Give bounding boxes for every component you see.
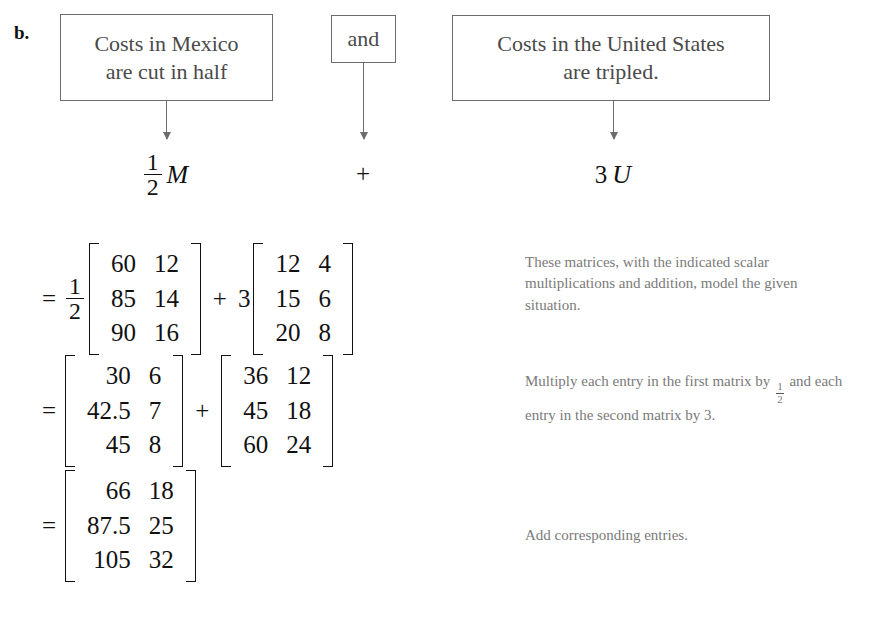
equation-line-1: = 1 2 60 12 85 14 90 16 + 3 [34, 243, 354, 355]
matrix-cell: 4 [309, 247, 340, 282]
expression-half-m: 1 2 M [120, 150, 212, 199]
annotation-note-3: Add corresponding entries. [525, 525, 825, 546]
matrix-cell: 30 [78, 359, 140, 394]
matrix-variable-m: M [162, 160, 189, 190]
matrix-cell: 20 [266, 316, 309, 351]
matrix-cell: 8 [309, 316, 340, 351]
matrix-variable-u: U [607, 160, 631, 190]
matrix-cell: 60 [234, 428, 277, 463]
equation-line-2: = 30 6 42.5 7 45 8 + 36 [34, 355, 334, 467]
fraction-one-half: 1 2 [144, 150, 162, 199]
matrix-cell: 12 [277, 359, 320, 394]
matrix-u-scaled: 36 12 45 18 60 24 [221, 355, 333, 467]
operator-plus-1: + [202, 285, 238, 313]
matrix-cell: 6 [140, 359, 171, 394]
matrix-cell: 36 [234, 359, 277, 394]
matrix-cell: 12 [266, 247, 309, 282]
statement-box-mexico-line2: are cut in half [106, 59, 228, 84]
statement-box-and: and [331, 15, 396, 63]
part-label: b. [14, 22, 29, 44]
matrix-cell: 105 [78, 543, 140, 578]
matrix-m-original: 60 12 85 14 90 16 [89, 243, 201, 355]
matrix-cell: 32 [140, 543, 183, 578]
matrix-cell: 8 [140, 428, 171, 463]
inline-fraction-numerator: 1 [776, 381, 784, 393]
matrix-cell: 85 [102, 282, 145, 317]
scalar-three: 3 [595, 161, 608, 189]
symbolic-expression-row: 1 2 M + 3U [0, 150, 896, 206]
scalar-numerator-1: 1 [66, 274, 84, 298]
statement-box-united-states-text: Costs in the United States are tripled. [489, 30, 732, 85]
annotation-note-2: Multiply each entry in the first matrix … [525, 371, 845, 427]
inline-fraction-denominator: 2 [776, 393, 784, 406]
matrix-cell: 90 [102, 316, 145, 351]
matrix-cell: 6 [309, 282, 340, 317]
fraction-numerator: 1 [144, 150, 162, 174]
scalar-three-1: 3 [238, 285, 253, 313]
statement-box-united-states-line1: Costs in the United States [497, 31, 724, 56]
equals-sign-2: = [34, 397, 64, 425]
down-arrow-icon-mexico [166, 101, 167, 139]
equals-sign-3: = [34, 512, 64, 540]
matrix-cell: 15 [266, 282, 309, 317]
operator-plus-2: + [184, 397, 220, 425]
matrix-cell: 18 [277, 394, 320, 429]
matrix-cell: 60 [102, 247, 145, 282]
matrix-cell: 24 [277, 428, 320, 463]
matrix-cell: 45 [234, 394, 277, 429]
fraction-denominator: 2 [144, 174, 162, 199]
annotation-note-2-before: Multiply each entry in the first matrix … [525, 373, 770, 389]
scalar-denominator-1: 2 [66, 298, 84, 323]
matrix-m-scaled: 30 6 42.5 7 45 8 [65, 355, 183, 467]
matrix-cell: 45 [78, 428, 140, 463]
annotation-note-1: These matrices, with the indicated scala… [525, 252, 825, 316]
statement-box-mexico-text: Costs in Mexico are cut in half [86, 30, 246, 85]
statement-box-mexico: Costs in Mexico are cut in half [60, 14, 273, 101]
matrix-cell: 16 [145, 316, 188, 351]
matrix-cell: 87.5 [78, 509, 140, 544]
matrix-cell: 18 [140, 474, 183, 509]
matrix-cell: 66 [78, 474, 140, 509]
statement-box-mexico-line1: Costs in Mexico [94, 31, 238, 56]
inline-fraction-one-half: 1 2 [776, 381, 784, 405]
expression-three-u: 3U [575, 160, 651, 190]
worked-example-page: b. Costs in Mexico are cut in half and C… [0, 0, 896, 628]
matrix-cell: 14 [145, 282, 188, 317]
matrix-u-original: 12 4 15 6 20 8 [253, 243, 353, 355]
matrix-cell: 12 [145, 247, 188, 282]
down-arrow-icon-and [363, 63, 364, 139]
statement-box-and-label: and [340, 25, 388, 53]
matrix-cell: 42.5 [78, 394, 140, 429]
scalar-one-half-1: 1 2 [64, 274, 88, 323]
expression-operator-plus: + [330, 160, 396, 188]
statement-box-united-states-line2: are tripled. [563, 59, 658, 84]
matrix-cell: 7 [140, 394, 171, 429]
matrix-cell: 25 [140, 509, 183, 544]
statement-box-united-states: Costs in the United States are tripled. [452, 15, 770, 101]
down-arrow-icon-united-states [613, 101, 614, 139]
equals-sign-1: = [34, 285, 64, 313]
equation-line-3: = 66 18 87.5 25 105 32 [34, 470, 197, 582]
matrix-result: 66 18 87.5 25 105 32 [65, 470, 196, 582]
